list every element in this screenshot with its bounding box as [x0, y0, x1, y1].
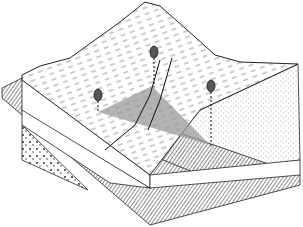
tree-icon — [207, 80, 215, 92]
block-diagram — [0, 0, 303, 227]
tree-icon — [94, 89, 102, 101]
diagram-canvas — [0, 0, 303, 227]
tree-icon — [150, 46, 158, 58]
